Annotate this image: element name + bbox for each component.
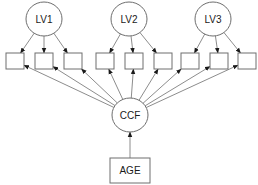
indicator-i1-box [6,53,24,69]
arrow-ccf-to-i4 [109,69,123,99]
indicator-i7-box [181,53,199,69]
indicator-i4 [96,53,114,69]
latent-variable-lv1: LV1 [26,2,62,36]
latent-variable-lv2: LV2 [111,2,147,36]
arrow-ccf-to-i7 [143,69,181,103]
indicator-i2-box [35,53,53,69]
arrow-lv3-to-i7 [194,34,204,53]
common-factor-ccf: CCF [112,98,148,132]
indicator-i5 [125,53,143,69]
indicator-i5-box [125,53,143,69]
arrow-ccf-to-i6 [139,69,158,100]
arrow-ccf-to-i1 [24,65,114,107]
latent-variable-lv1-label: LV1 [35,14,52,25]
indicator-i4-box [96,53,114,69]
arrow-lv3-to-i8 [215,36,217,53]
indicator-i3 [64,53,82,69]
arrow-lv1-to-i1 [21,33,35,53]
common-factor-ccf-label: CCF [120,110,141,121]
arrow-ccf-to-i2 [53,67,115,106]
arrow-ccf-to-i5 [131,69,133,98]
indicator-i2 [35,53,53,69]
latent-variable-lv3-label: LV3 [204,14,221,25]
covariate-age: AGE [110,158,150,183]
latent-variable-lv3: LV3 [195,2,231,36]
arrow-ccf-to-i3 [81,69,117,103]
indicator-i1 [6,53,24,69]
indicator-i6 [154,53,172,69]
indicator-i6-box [154,53,172,69]
path-diagram: LV1LV2LV3CCFAGE [0,0,258,185]
covariate-age-label: AGE [119,165,140,176]
indicator-i3-box [64,53,82,69]
arrow-lv1-to-i3 [54,33,68,53]
indicator-i9-box [238,53,256,69]
edges [21,33,241,158]
arrow-lv2-to-i4 [110,34,121,53]
indicator-i8 [210,53,228,69]
indicator-i8-box [210,53,228,69]
arrow-ccf-to-i9 [146,65,238,107]
arrow-lv2-to-i5 [131,36,133,53]
arrow-lv2-to-i6 [140,33,157,53]
arrow-lv3-to-i9 [224,33,241,53]
latent-variable-lv2-label: LV2 [120,14,137,25]
nodes: LV1LV2LV3CCFAGE [6,2,256,183]
indicator-i7 [181,53,199,69]
indicator-i9 [238,53,256,69]
